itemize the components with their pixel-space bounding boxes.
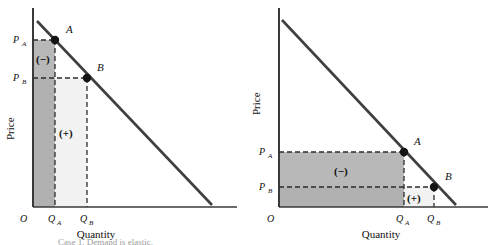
right-point-a [400,148,408,156]
right-panel-plot: A B P A P B Q A Q B O (−) (+) Price Quan… [248,0,496,245]
figure-caption-fragment: Case 1. Demand is elastic. [58,237,228,245]
right-price-tick-b-sub: B [268,187,273,195]
left-quantity-tick-a-sub: A [56,219,62,227]
left-point-a-label: A [65,23,73,35]
right-quantity-tick-b: Q [427,213,435,224]
right-origin-label: O [267,213,274,224]
left-point-b [83,74,91,82]
left-revenue-loss-rect-lower [33,78,55,207]
inelastic-demand-panel: A B P A P B Q A Q B O (−) (+) Price Quan… [248,0,496,245]
left-price-tick-b-sub: B [22,78,27,86]
right-quantity-tick-b-sub: B [436,219,441,227]
left-price-tick-a: P [12,34,19,45]
right-revenue-loss-rect-lower [279,187,404,207]
left-negative-sign: (−) [36,53,50,66]
left-price-tick-a-sub: A [21,40,27,48]
right-price-axis-title: Price [250,92,262,115]
left-quantity-tick-b: Q [80,213,88,224]
left-quantity-tick-b-sub: B [89,219,94,227]
left-revenue-gain-rect [55,78,87,207]
left-price-tick-b: P [12,72,19,83]
left-quantity-tick-a: Q [48,213,56,224]
right-quantity-tick-a-sub: A [404,219,410,227]
left-point-a [51,36,59,44]
right-price-tick-b: P [258,181,265,192]
elasticity-revenue-figure: A B P A P B Q A Q B O (−) (+) Price Quan… [0,0,496,245]
right-price-tick-a-sub: A [267,152,273,160]
right-price-tick-a: P [258,146,265,157]
right-point-a-label: A [413,135,421,147]
elastic-demand-panel: A B P A P B Q A Q B O (−) (+) Price Quan… [0,0,248,245]
left-positive-sign: (+) [59,127,73,140]
right-point-b-label: B [445,170,452,182]
left-origin-label: O [20,213,27,224]
right-positive-sign: (+) [407,192,421,205]
left-panel-plot: A B P A P B Q A Q B O (−) (+) Price Quan… [0,0,248,245]
left-point-b-label: B [97,61,104,73]
right-point-b [430,183,438,191]
left-price-axis-title: Price [4,117,16,140]
right-negative-sign: (−) [334,165,348,178]
right-quantity-axis-title: Quantity [362,228,401,240]
right-quantity-tick-a: Q [396,213,404,224]
